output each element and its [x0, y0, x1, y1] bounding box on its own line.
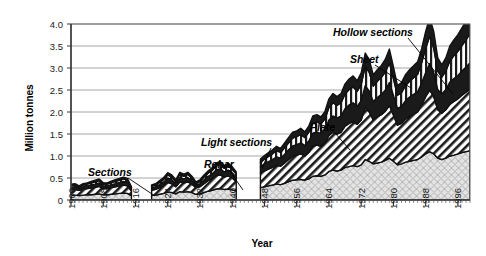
steel-consumption-area-chart: 00.51.01.52.02.53.03.54.0 19001908191619…	[0, 0, 486, 256]
x-tick-label: 1924	[162, 188, 173, 209]
y-tick-label: 0	[58, 195, 63, 206]
annotation-label: Hollow sections	[333, 26, 413, 38]
annotation-label: Rebar	[204, 158, 235, 170]
y-tick-label: 2.0	[50, 107, 63, 118]
x-tick-label: 1980	[388, 188, 399, 209]
x-tick-label: 1932	[194, 188, 205, 209]
x-tick-label: 1972	[356, 188, 367, 209]
annotation-label: Light sections	[201, 136, 272, 148]
y-tick-label: 3.0	[50, 63, 63, 74]
y-tick-label: 2.5	[50, 85, 63, 96]
x-tick-label: 1996	[452, 188, 463, 209]
x-tick-label: 1908	[98, 188, 109, 209]
annotation-label: Sheet	[350, 53, 379, 65]
x-tick-label: 1900	[66, 188, 77, 209]
x-tick-label: 1956	[291, 188, 302, 209]
annotation-label: Plate	[310, 121, 335, 133]
y-axis-title: Million tonnes	[24, 84, 35, 152]
y-tick-label: 0.5	[50, 173, 63, 184]
chart-canvas: 00.51.01.52.02.53.03.54.0 19001908191619…	[0, 0, 486, 256]
y-tick-label: 3.5	[50, 41, 63, 52]
y-tick-label: 1.0	[50, 151, 63, 162]
x-tick-label: 1940	[227, 188, 238, 209]
x-tick-label: 1988	[420, 188, 431, 209]
x-tick-label: 1948	[259, 188, 270, 209]
x-tick-label: 1916	[130, 188, 141, 209]
x-axis-title: Year	[251, 238, 272, 249]
x-tick-label: 1964	[323, 188, 334, 209]
y-tick-label: 1.5	[50, 129, 63, 140]
y-tick-label: 4.0	[50, 19, 63, 30]
annotation-label: Sections	[88, 166, 132, 178]
